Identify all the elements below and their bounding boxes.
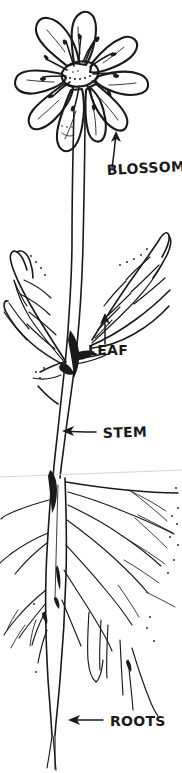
botany-diagram: BLOSSOM LEAF STEM ROOTS	[0, 0, 182, 773]
label-stem-group: STEM	[103, 423, 148, 441]
label-stem: STEM	[103, 423, 148, 441]
callout-label-layer: BLOSSOM LEAF STEM ROOTS	[0, 0, 182, 773]
label-blossom: BLOSSOM	[106, 158, 182, 178]
label-roots: ROOTS	[110, 713, 166, 729]
label-roots-group: ROOTS	[110, 713, 166, 729]
label-leaf-group: LEAF	[88, 342, 128, 358]
label-leaf: LEAF	[88, 342, 128, 358]
label-blossom-group: BLOSSOM	[106, 158, 182, 178]
